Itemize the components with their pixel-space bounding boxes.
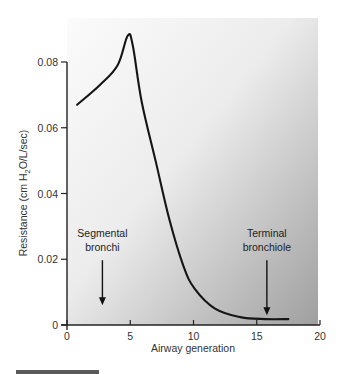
annotation-label: bronchiole [243, 241, 292, 253]
y-tick-label: 0.04 [38, 188, 59, 200]
y-tick-label: 0.06 [38, 122, 59, 134]
annotation-label: Segmental [77, 227, 127, 239]
footer-bar [16, 370, 99, 374]
x-tick-label: 0 [64, 330, 70, 342]
x-tick-label: 20 [314, 330, 326, 342]
resistance-chart: 00.020.040.060.0805101520 Segmentalbronc… [0, 0, 341, 374]
y-axis-title: Resistance (cm H2O/L/sec) [17, 130, 32, 257]
x-tick-label: 10 [188, 330, 200, 342]
plot-background [67, 18, 318, 325]
x-tick-label: 15 [251, 330, 263, 342]
annotation-label: bronchi [85, 241, 119, 253]
annotation-label: Terminal [247, 227, 287, 239]
y-tick-label: 0.02 [38, 253, 59, 265]
x-tick-label: 5 [127, 330, 133, 342]
y-tick-label: 0.08 [38, 56, 59, 68]
y-tick-label: 0 [52, 319, 58, 331]
x-axis-title: Airway generation [151, 342, 235, 354]
